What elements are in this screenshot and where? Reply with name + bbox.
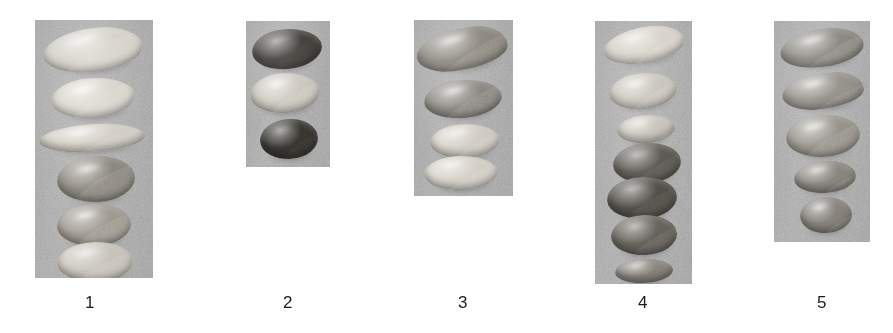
seed-body	[601, 21, 688, 69]
seed-5-1	[778, 24, 866, 72]
seed-figure: 12345	[0, 0, 893, 333]
panel-3	[414, 20, 513, 196]
seed-body	[793, 159, 857, 195]
seed-4-7	[614, 257, 673, 284]
seed-4-6	[610, 213, 678, 256]
caption-3: 3	[443, 292, 483, 314]
panel-1	[35, 20, 153, 278]
seed-body	[41, 23, 145, 77]
seed-body	[56, 241, 133, 278]
seed-3-4	[423, 155, 498, 192]
seed-body	[781, 69, 866, 112]
seed-2-1	[250, 25, 324, 72]
caption-row: 12345	[0, 292, 893, 322]
seed-5-2	[781, 69, 866, 112]
caption-4: 4	[623, 292, 663, 314]
seed-4-1	[601, 21, 688, 69]
panel-5	[774, 21, 870, 242]
seed-body	[414, 22, 510, 76]
panel-4	[595, 21, 692, 284]
seed-body	[56, 203, 131, 248]
seed-body	[778, 24, 866, 72]
seed-5-3	[785, 112, 862, 159]
seed-1-2	[49, 74, 136, 121]
seed-body	[610, 213, 678, 256]
seed-body	[785, 112, 862, 159]
seed-1-6	[56, 241, 133, 278]
seed-1-1	[41, 23, 145, 77]
seed-body	[799, 196, 853, 235]
seed-body	[259, 117, 320, 161]
seed-body	[429, 122, 501, 160]
panel-2	[246, 21, 330, 167]
seed-3-1	[414, 22, 510, 76]
caption-2: 2	[268, 292, 308, 314]
seed-body	[614, 257, 673, 284]
seed-3-2	[422, 77, 503, 122]
seed-body	[38, 121, 145, 155]
seed-4-3	[616, 113, 676, 145]
seed-1-4	[56, 154, 136, 204]
seed-body	[250, 25, 324, 72]
caption-1: 1	[70, 292, 110, 314]
seed-1-5	[56, 203, 131, 248]
seed-2-3	[259, 117, 320, 161]
seed-body	[607, 70, 678, 113]
seed-5-5	[799, 196, 853, 235]
caption-5: 5	[802, 292, 842, 314]
seed-body	[49, 74, 136, 121]
seed-1-3	[38, 121, 145, 155]
seed-4-2	[607, 70, 678, 113]
seed-5-4	[793, 159, 857, 195]
seed-body	[249, 71, 322, 116]
seed-body	[423, 155, 498, 192]
seed-2-2	[249, 71, 322, 116]
seed-4-5	[606, 175, 678, 221]
seed-body	[422, 77, 503, 122]
seed-body	[56, 154, 136, 204]
seed-body	[606, 175, 678, 221]
seed-body	[616, 113, 676, 145]
seed-3-3	[429, 122, 501, 160]
